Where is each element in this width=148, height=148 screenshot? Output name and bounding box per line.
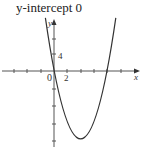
y-axis-label: y	[47, 18, 52, 28]
x-axis-label: x	[133, 72, 138, 82]
y-axis-arrow-icon	[52, 19, 57, 25]
parabola-curve	[45, 18, 115, 139]
chart-plot: x 0 2 y 4	[0, 0, 148, 148]
y-tick-label-4: 4	[58, 51, 63, 61]
origin-label: 0	[47, 72, 52, 83]
x-axis: x 0 2	[2, 69, 140, 84]
x-tick-label-2: 2	[64, 73, 69, 83]
